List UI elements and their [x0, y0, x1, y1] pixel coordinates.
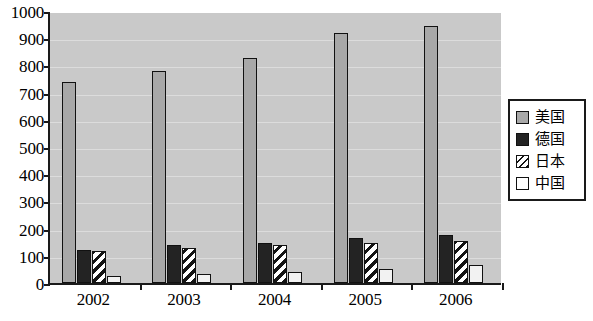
bar-us-2006: [424, 26, 438, 283]
bar-group-2006: [412, 13, 503, 283]
bar-de-2004: [258, 243, 272, 283]
bar-cn-2004: [288, 272, 302, 283]
x-axis-tick-label: 2003: [139, 290, 230, 310]
y-axis-tick-label: 1000: [0, 4, 44, 21]
x-axis-tick-label: 2002: [48, 290, 139, 310]
bar-de-2005: [349, 238, 363, 283]
bar-group-2005: [322, 13, 413, 283]
y-axis-tick-label: 300: [0, 194, 44, 211]
x-axis-tick-mark: [140, 283, 142, 290]
bar-jp-2002: [92, 251, 106, 283]
y-axis: 01002003004005006007008009001000: [0, 0, 44, 321]
legend-item-jp[interactable]: 日本: [516, 150, 579, 172]
bar-jp-2003: [182, 248, 196, 283]
x-axis-tick-label: 2005: [320, 290, 411, 310]
legend-item-label: 中国: [535, 175, 565, 191]
legend-item-label: 日本: [535, 153, 565, 169]
bar-group-2002: [50, 13, 141, 283]
y-axis-tick-label: 200: [0, 222, 44, 239]
y-axis-tick-label: 500: [0, 140, 44, 157]
chart-legend: 美国德国日本中国: [508, 99, 586, 201]
legend-item-de[interactable]: 德国: [516, 128, 579, 150]
bar-de-2003: [167, 245, 181, 283]
y-axis-tick-label: 0: [0, 276, 44, 293]
plot-inner: [50, 13, 501, 283]
legend-swatch-icon: [516, 111, 529, 124]
y-axis-tick-label: 400: [0, 167, 44, 184]
bar-jp-2005: [364, 243, 378, 283]
bar-de-2006: [439, 235, 453, 283]
plot-area: [48, 13, 501, 285]
bar-us-2003: [152, 71, 166, 283]
x-axis: 20022003200420052006: [48, 290, 501, 321]
x-axis-tick-mark: [230, 283, 232, 290]
y-axis-tick-label: 700: [0, 86, 44, 103]
legend-item-label: 德国: [535, 131, 565, 147]
y-axis-tick-label: 900: [0, 31, 44, 48]
y-axis-tick-label: 100: [0, 249, 44, 266]
bar-us-2002: [62, 82, 76, 283]
bar-cn-2005: [379, 269, 393, 283]
x-axis-tick-mark: [321, 283, 323, 290]
x-axis-tick-label: 2006: [410, 290, 501, 310]
legend-swatch-icon: [516, 133, 529, 146]
bar-chart: 01002003004005006007008009001000 2002200…: [0, 0, 593, 321]
bar-group-2003: [141, 13, 232, 283]
y-axis-tick-label: 600: [0, 113, 44, 130]
x-axis-tick-label: 2004: [229, 290, 320, 310]
legend-item-us[interactable]: 美国: [516, 106, 579, 128]
bar-jp-2004: [273, 245, 287, 283]
bar-group-2004: [231, 13, 322, 283]
legend-item-label: 美国: [535, 109, 565, 125]
bar-cn-2002: [107, 276, 121, 283]
bar-us-2004: [243, 58, 257, 283]
bar-jp-2006: [454, 241, 468, 283]
legend-swatch-icon: [516, 155, 529, 168]
bar-de-2002: [77, 250, 91, 283]
y-axis-tick-label: 800: [0, 58, 44, 75]
bar-cn-2006: [469, 265, 483, 283]
legend-item-cn[interactable]: 中国: [516, 172, 579, 194]
bar-cn-2003: [197, 274, 211, 283]
x-axis-tick-mark: [411, 283, 413, 290]
legend-swatch-icon: [516, 177, 529, 190]
bar-us-2005: [334, 33, 348, 283]
y-axis-tick-mark: [44, 284, 50, 286]
x-axis-tick-mark: [502, 283, 504, 290]
